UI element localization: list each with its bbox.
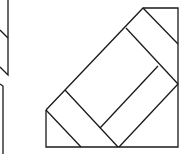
outer-parallel xyxy=(119,84,178,147)
left-partial-figure-bottom xyxy=(0,84,3,154)
left-partial-diagonal xyxy=(0,30,8,38)
square-outline xyxy=(46,8,178,147)
corner-cut-bottom-left xyxy=(46,110,81,147)
corner-cut-top-right xyxy=(143,8,178,44)
geometric-diagram xyxy=(0,0,179,154)
inner-parallel xyxy=(100,66,158,128)
